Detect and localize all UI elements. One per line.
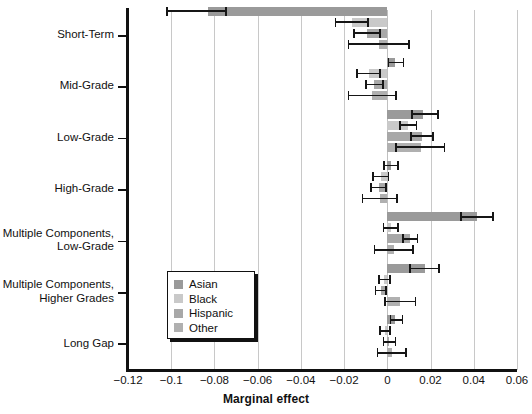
x-axis-tick-label: 0.04: [463, 374, 485, 386]
y-axis-label: Short-Term: [0, 28, 114, 42]
y-axis-label: Low-Grade: [0, 131, 114, 145]
chart-figure: Short-TermMid-GradeLow-GradeHigh-GradeMu…: [0, 0, 532, 414]
y-axis-label: Mid-Grade: [0, 79, 114, 93]
y-axis-label-line: Short-Term: [0, 28, 114, 42]
legend-label: Hispanic: [189, 307, 233, 319]
y-axis-label-line: Multiple Components,: [0, 227, 114, 241]
error-bar-cap: [415, 297, 417, 306]
x-axis-tick-label: −0.04: [286, 374, 315, 386]
error-bar-cap: [379, 326, 381, 335]
error-bar-cap: [395, 337, 397, 346]
error-bar-line: [461, 216, 493, 218]
x-axis-tick-label: −0.02: [330, 374, 359, 386]
error-bar-line: [371, 187, 386, 189]
error-bar-line: [167, 10, 226, 12]
error-bar-cap: [432, 132, 434, 141]
x-axis-title: Marginal effect: [0, 392, 532, 406]
error-bar-cap: [367, 18, 369, 27]
error-bar-cap: [390, 315, 392, 324]
error-bar-line: [403, 238, 418, 240]
legend-label: Asian: [189, 278, 218, 290]
x-axis-tick-label: −0.12: [113, 374, 142, 386]
error-bar-cap: [356, 69, 358, 78]
y-axis-label-line: Long Gap: [0, 337, 114, 351]
y-axis-tick: [118, 343, 127, 345]
error-bar-cap: [399, 121, 401, 130]
error-bar-cap: [410, 132, 412, 141]
error-bar-line: [411, 135, 433, 137]
error-bar-cap: [389, 275, 391, 284]
error-bar-cap: [411, 110, 413, 119]
error-bar-line: [366, 84, 383, 86]
legend-swatch: [174, 323, 183, 332]
error-bar-cap: [395, 143, 397, 152]
error-bar-cap: [402, 234, 404, 243]
error-bar-cap: [402, 315, 404, 324]
legend-item: Asian: [174, 277, 248, 292]
error-bar-line: [335, 21, 367, 23]
error-bar-cap: [383, 337, 385, 346]
bar: [208, 7, 387, 16]
error-bar-cap: [397, 161, 399, 170]
error-bar-cap: [378, 275, 380, 284]
error-bar-cap: [377, 348, 379, 357]
x-axis-tick-label: −0.08: [200, 374, 229, 386]
legend-item: Other: [174, 321, 248, 336]
error-bar-cap: [388, 58, 390, 67]
error-bar-line: [373, 176, 388, 178]
error-bar-line: [378, 352, 406, 354]
y-axis-tick: [118, 292, 127, 294]
x-axis-tick-label: −0.1: [160, 374, 183, 386]
x-axis-tick-label: −0.06: [243, 374, 272, 386]
y-axis-tick: [118, 138, 127, 140]
gridline: [517, 10, 518, 370]
error-bar-cap: [353, 29, 355, 38]
legend-swatch: [174, 294, 183, 303]
x-axis-spine: [126, 369, 517, 372]
error-bar-line: [348, 43, 409, 45]
legend-label: Black: [189, 293, 217, 305]
error-bar-line: [374, 249, 413, 251]
error-bar-cap: [396, 194, 398, 203]
error-bar-cap: [335, 18, 337, 27]
error-bar-cap: [383, 161, 385, 170]
error-bar-cap: [385, 286, 387, 295]
error-bar-cap: [416, 121, 418, 130]
y-axis-label: High-Grade: [0, 182, 114, 196]
error-bar-cap: [362, 194, 364, 203]
error-bar-cap: [370, 183, 372, 192]
error-bar-cap: [375, 286, 377, 295]
legend-swatch: [174, 280, 183, 289]
y-axis-label-line: Low-Grade: [0, 131, 114, 145]
y-axis-label-line: Higher Grades: [0, 292, 114, 306]
error-bar-line: [383, 227, 397, 229]
x-axis-tick-label: 0: [384, 374, 390, 386]
error-bar-cap: [438, 264, 440, 273]
x-axis-tick-label: 0.02: [419, 374, 441, 386]
error-bar-cap: [444, 143, 446, 152]
error-bar-line: [400, 124, 416, 126]
error-bar-cap: [365, 80, 367, 89]
error-bar-cap: [397, 223, 399, 232]
error-bar-line: [396, 146, 445, 148]
y-axis-tick: [118, 35, 127, 37]
error-bar-cap: [437, 110, 439, 119]
y-axis-label-line: Low-Grade: [0, 240, 114, 254]
legend-swatch: [174, 309, 183, 318]
legend-item: Black: [174, 292, 248, 307]
error-bar-cap: [383, 223, 385, 232]
y-axis-label-line: Mid-Grade: [0, 79, 114, 93]
error-bar-line: [357, 73, 380, 75]
error-bar-line: [362, 198, 397, 200]
error-bar-line: [410, 268, 439, 270]
error-bar-cap: [412, 245, 414, 254]
y-axis-label: Multiple Components,Higher Grades: [0, 278, 114, 305]
error-bar-cap: [408, 40, 410, 49]
legend-item: Hispanic: [174, 306, 248, 321]
error-bar-line: [348, 95, 396, 97]
error-bar-cap: [409, 264, 411, 273]
error-bar-cap: [405, 348, 407, 357]
error-bar-cap: [492, 212, 494, 221]
error-bar-cap: [225, 7, 227, 16]
error-bar-cap: [417, 234, 419, 243]
